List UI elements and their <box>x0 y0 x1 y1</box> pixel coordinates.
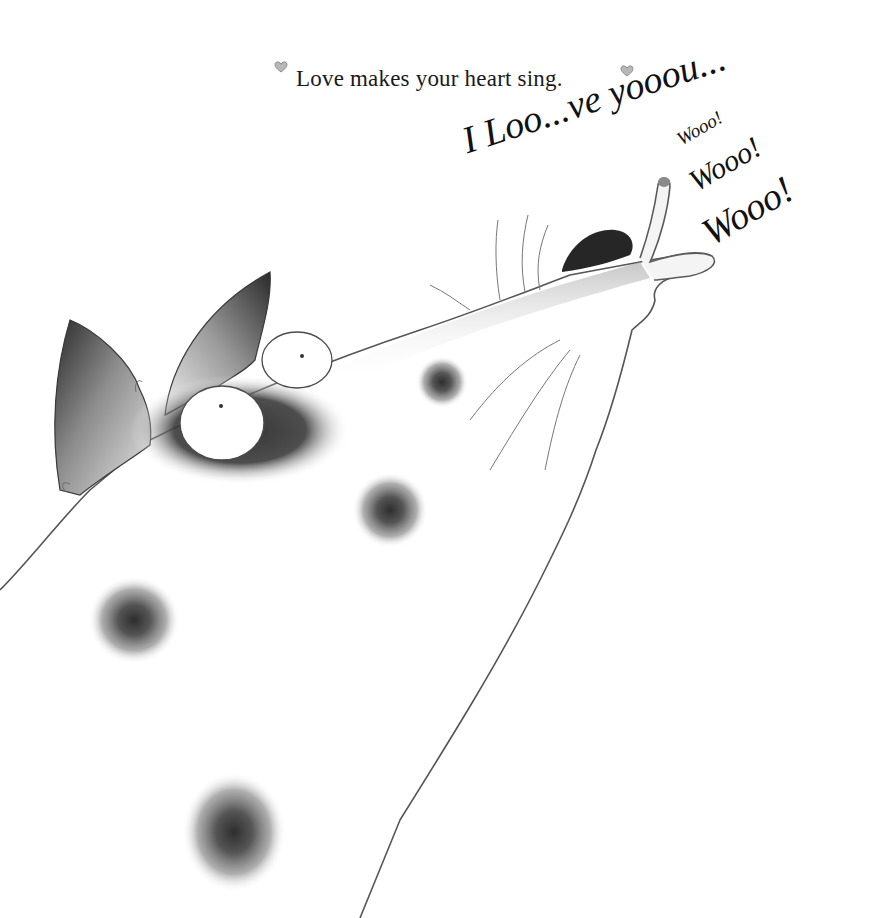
dog-spot <box>352 472 428 548</box>
dog-left-ear <box>55 320 151 495</box>
dog-spot <box>182 772 286 892</box>
book-page: Love makes your heart sing. I Loo...ve y… <box>0 0 886 918</box>
page-caption: Love makes your heart sing. <box>296 66 563 92</box>
whiskers <box>430 215 580 470</box>
dog-spot <box>88 576 180 664</box>
dog-eye-right <box>262 332 332 388</box>
dog-eye-left <box>180 386 264 460</box>
dog-spot <box>416 356 468 408</box>
heart-icon <box>274 60 288 74</box>
